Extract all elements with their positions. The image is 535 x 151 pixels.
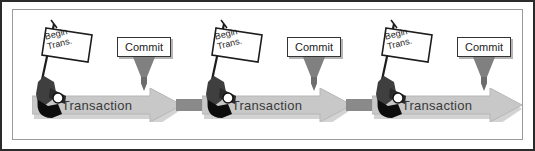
starter-pistol-icon — [202, 18, 280, 122]
transaction-segment: Transaction Begin Trans — [14, 0, 184, 151]
commit-label: Commit — [465, 41, 503, 53]
starter-pistol-icon — [32, 18, 110, 122]
diagram-canvas: Transaction Begin Trans — [0, 0, 535, 151]
commit-label-box: Commit — [457, 37, 511, 57]
commit-label: Commit — [125, 41, 163, 53]
transaction-segment: Transaction Begin Trans. Commit — [354, 0, 524, 151]
segment-connector — [346, 99, 372, 111]
commit-label-box: Commit — [287, 37, 341, 57]
commit-callout: Commit — [287, 37, 343, 93]
commit-callout: Commit — [117, 37, 173, 93]
commit-label: Commit — [295, 41, 333, 53]
commit-label-box: Commit — [117, 37, 171, 57]
transaction-segment: Transaction Begin Trans. Commit — [184, 0, 354, 151]
starter-pistol-icon — [372, 18, 450, 122]
commit-down-arrow-icon — [130, 57, 158, 91]
commit-down-arrow-icon — [300, 57, 328, 91]
segment-connector — [176, 99, 202, 111]
commit-down-arrow-icon — [470, 57, 498, 91]
figure-root: Transaction Begin Trans — [0, 0, 535, 151]
commit-callout: Commit — [457, 37, 513, 93]
